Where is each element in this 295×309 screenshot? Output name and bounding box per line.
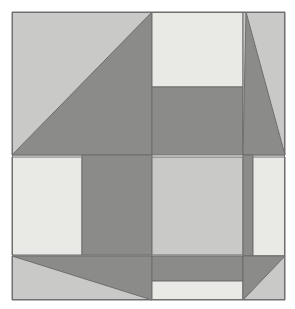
bottom-center-dark-band xyxy=(152,256,243,281)
bottom-center-lightest-rect xyxy=(152,281,243,300)
mid-left-dark-rect xyxy=(82,155,152,255)
mid-left-lightest-rect xyxy=(12,157,82,255)
mid-right-dark-band xyxy=(243,155,253,256)
top-center-lightest-rect xyxy=(152,12,243,87)
artwork-canvas xyxy=(0,0,295,309)
mid-right-lightest-rect xyxy=(253,157,285,256)
top-center-dark-rect xyxy=(152,87,243,155)
geometric-composition xyxy=(0,0,295,309)
mid-center-light-square xyxy=(152,157,243,255)
